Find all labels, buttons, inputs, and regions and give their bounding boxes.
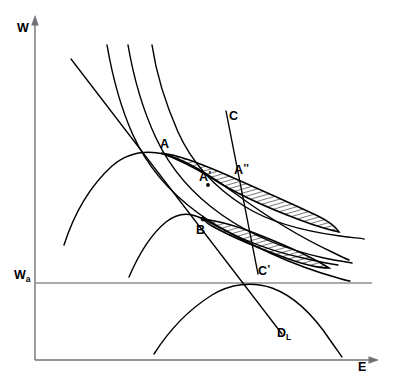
- point-label-A-text: A: [160, 137, 169, 151]
- isoprofit-curve-reserve: [154, 284, 342, 357]
- point-label-A-prime: A': [199, 171, 211, 184]
- point-label-A-prime-text: A: [199, 170, 208, 184]
- axis-group: [31, 15, 379, 364]
- economics-diagram-canvas: [0, 0, 393, 388]
- x-axis-label: E: [358, 361, 366, 374]
- curve-label-C-prime-mark: ': [268, 263, 271, 275]
- figure-container: W E Wa A A' A'' B C C' DL: [0, 0, 393, 388]
- curve-label-C-prime: C': [258, 265, 270, 278]
- point-label-A-double-prime-mark: '': [244, 162, 249, 174]
- point-label-B-text: B: [196, 223, 205, 237]
- point-dot-B: [201, 217, 206, 222]
- reserve-wage-label-main: W: [14, 268, 26, 282]
- point-label-B: B: [196, 224, 205, 237]
- curve-label-DL-text: D: [277, 326, 286, 340]
- shaded-region-upper-lens: [161, 153, 339, 232]
- y-axis-label: W: [17, 22, 29, 35]
- shaded-region-lower-lens: [203, 219, 329, 268]
- y-axis-arrow: [31, 15, 39, 26]
- x-axis-arrow: [369, 356, 380, 364]
- curve-label-C-text: C: [229, 109, 238, 123]
- point-label-A-double-prime: A'': [234, 164, 248, 177]
- reserve-wage-label-subscript: a: [26, 274, 31, 284]
- curve-label-DL-subscript: L: [286, 332, 291, 342]
- point-label-A-double-prime-text: A: [234, 163, 243, 177]
- point-label-A: A: [160, 138, 169, 151]
- curve-label-DL: DL: [277, 327, 291, 340]
- reserve-wage-label: Wa: [14, 269, 31, 282]
- curve-label-C-prime-text: C: [258, 264, 267, 278]
- point-label-A-prime-mark: ': [209, 169, 212, 181]
- curve-label-C: C: [229, 110, 238, 123]
